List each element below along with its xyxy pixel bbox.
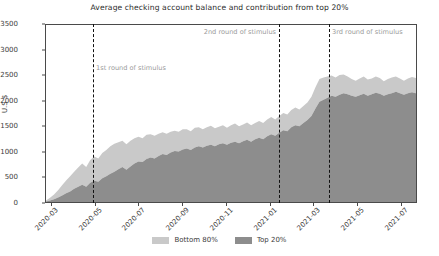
x-tick-label: 2020-09 (165, 206, 191, 232)
legend-item-bottom-80: Bottom 80% (152, 236, 217, 244)
x-tick-mark (182, 203, 183, 206)
x-tick-mark (401, 203, 402, 206)
annotation-label-stimulus-2: 2nd round of stimulus (204, 28, 276, 36)
chart-figure: Average checking account balance and con… (0, 0, 439, 256)
annotation-line-stimulus-1 (93, 24, 94, 203)
legend-label-top-20: Top 20% (257, 236, 287, 244)
area-top-20 (46, 92, 416, 202)
y-tick-label: 3000 (0, 46, 18, 54)
x-tick-label: 2021-05 (340, 206, 366, 232)
y-tick-label: 500 (5, 173, 18, 181)
stacked-area-series (46, 25, 416, 202)
annotation-line-stimulus-2 (279, 24, 280, 203)
x-tick-label: 2020-05 (77, 206, 103, 232)
x-tick-label: 2020-07 (121, 206, 147, 232)
chart-legend: Bottom 80% Top 20% (0, 236, 439, 244)
y-tick-label: 0 (14, 199, 18, 207)
chart-title: Average checking account balance and con… (0, 3, 439, 12)
x-tick-mark (51, 203, 52, 206)
x-tick-mark (357, 203, 358, 206)
annotation-label-stimulus-3: 3rd round of stimulus (332, 28, 403, 36)
legend-label-bottom-80: Bottom 80% (174, 236, 217, 244)
y-tick-label: 1000 (0, 148, 18, 156)
x-tick-label: 2020-03 (34, 206, 60, 232)
legend-swatch-bottom-80 (152, 237, 169, 244)
y-tick-label: 2500 (0, 71, 18, 79)
x-tick-label: 2021-07 (383, 206, 409, 232)
x-tick-label: 2021-01 (252, 206, 278, 232)
annotation-label-stimulus-1: 1st round of stimulus (96, 64, 166, 72)
x-tick-mark (138, 203, 139, 206)
x-tick-mark (95, 203, 96, 206)
x-tick-mark (313, 203, 314, 206)
x-tick-mark (226, 203, 227, 206)
y-tick-label: 1500 (0, 122, 18, 130)
plot-area (45, 24, 417, 203)
legend-swatch-top-20 (235, 237, 252, 244)
y-tick-label: 2000 (0, 97, 18, 105)
x-tick-label: 2021-03 (296, 206, 322, 232)
x-tick-label: 2020-11 (208, 206, 234, 232)
legend-item-top-20: Top 20% (235, 236, 287, 244)
y-tick-label: 3500 (0, 20, 18, 28)
annotation-line-stimulus-3 (329, 24, 330, 203)
x-tick-mark (270, 203, 271, 206)
